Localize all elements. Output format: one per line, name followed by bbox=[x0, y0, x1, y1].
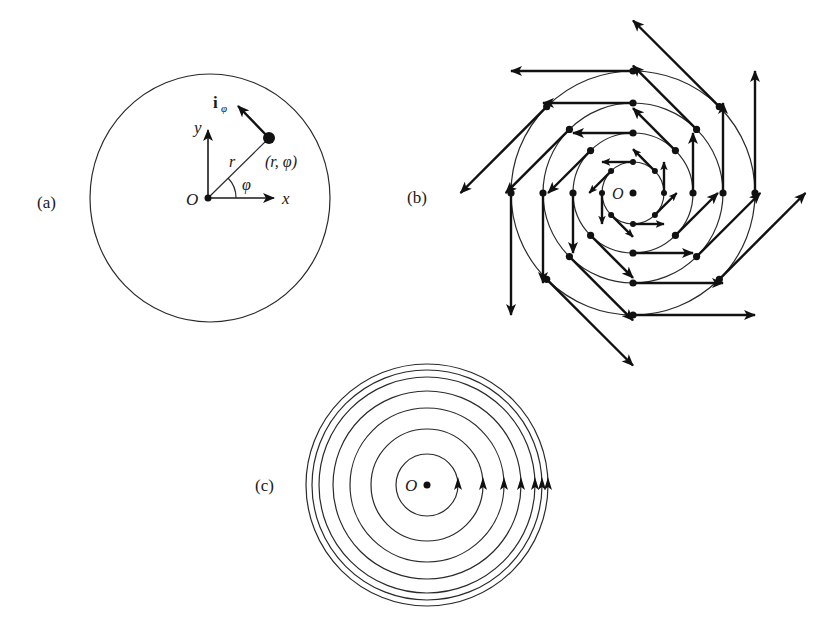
tangent-arrow-icon bbox=[461, 107, 547, 193]
field-point-dot bbox=[608, 168, 614, 174]
angle-label: φ bbox=[242, 176, 251, 194]
field-point-dot bbox=[629, 279, 636, 286]
panel-c-origin-label: O bbox=[405, 476, 417, 495]
field-point-dot bbox=[566, 253, 573, 260]
field-point-dot bbox=[543, 276, 550, 283]
field-point-dot bbox=[693, 126, 700, 133]
panel-c: (c) O bbox=[255, 364, 552, 606]
figure: (a) O x y r φ (r, φ) i φ (b) O (c) bbox=[0, 0, 839, 638]
field-point-dot bbox=[629, 67, 636, 74]
field-point-dot bbox=[751, 189, 758, 196]
field-point-dot bbox=[672, 147, 679, 154]
i-phi-label-sub: φ bbox=[221, 102, 227, 114]
field-point-dot bbox=[693, 253, 700, 260]
field-point-dot bbox=[608, 212, 614, 218]
field-point-dot bbox=[661, 190, 667, 196]
field-point-dot bbox=[566, 126, 573, 133]
tangent-arrow-icon bbox=[633, 149, 655, 171]
panel-b-origin-dot bbox=[630, 190, 637, 197]
i-phi-vector-icon bbox=[238, 106, 269, 138]
radius-line bbox=[208, 138, 269, 198]
field-point-dot bbox=[672, 232, 679, 239]
field-point-dot bbox=[652, 212, 658, 218]
origin-dot bbox=[205, 195, 212, 202]
field-point-dot bbox=[629, 311, 636, 318]
field-point-dot bbox=[719, 189, 726, 196]
tangent-arrow-icon bbox=[675, 193, 718, 235]
tangent-arrow-icon bbox=[589, 171, 611, 193]
panel-a: (a) O x y r φ (r, φ) i φ bbox=[37, 74, 330, 322]
field-point-dot bbox=[629, 99, 636, 106]
panel-b-label: (b) bbox=[407, 188, 427, 207]
panel-c-label: (c) bbox=[255, 476, 274, 495]
field-point-dot bbox=[629, 129, 636, 136]
panel-a-label: (a) bbox=[37, 193, 56, 212]
tangent-arrow-icon bbox=[547, 279, 633, 365]
tangent-arrow-icon bbox=[655, 193, 677, 215]
i-phi-label-main: i bbox=[213, 93, 218, 112]
field-point-dot bbox=[630, 221, 636, 227]
field-point-dot bbox=[716, 276, 723, 283]
field-point-dot bbox=[507, 189, 514, 196]
panel-c-origin-dot bbox=[424, 482, 431, 489]
tangent-arrow-icon bbox=[633, 21, 719, 107]
field-point-dot bbox=[689, 189, 696, 196]
panel-b-origin-label: O bbox=[612, 185, 624, 202]
field-point-dot bbox=[539, 189, 546, 196]
field-point-dot bbox=[629, 249, 636, 256]
tangent-arrow-icon bbox=[548, 151, 591, 193]
tangent-arrow-icon bbox=[591, 235, 633, 278]
field-point-dot bbox=[716, 103, 723, 110]
x-axis-label: x bbox=[281, 189, 290, 208]
field-point-dot bbox=[587, 232, 594, 239]
y-axis-label: y bbox=[192, 118, 202, 137]
field-point-dot bbox=[587, 147, 594, 154]
point-label: (r, φ) bbox=[265, 153, 297, 171]
field-point-dot bbox=[543, 103, 550, 110]
panel-b: (b) O bbox=[407, 21, 806, 366]
radius-label: r bbox=[229, 153, 236, 170]
angle-arc bbox=[228, 178, 236, 198]
tangent-arrow-icon bbox=[719, 193, 805, 279]
field-point-dot bbox=[569, 189, 576, 196]
field-point-dot bbox=[630, 159, 636, 165]
panel-a-origin-label: O bbox=[186, 190, 198, 209]
tangent-arrow-icon bbox=[611, 215, 633, 237]
field-point-dot bbox=[652, 168, 658, 174]
tangent-arrow-icon bbox=[633, 108, 675, 151]
field-point-dot bbox=[599, 190, 605, 196]
